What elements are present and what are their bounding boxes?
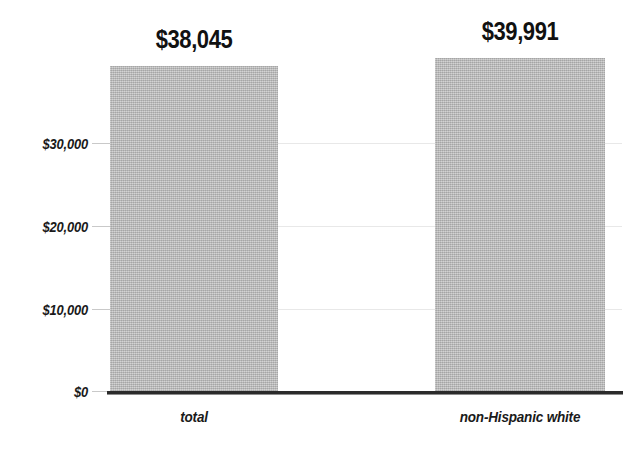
y-axis-tick-label: $0 [12, 383, 88, 400]
tick-mark-20000 [92, 226, 110, 227]
tick-mark-10000 [92, 309, 110, 310]
y-axis-tick-10000: $10,000 [0, 301, 88, 317]
bar-total [110, 66, 278, 392]
bar-chart: $30,000 $20,000 $10,000 $0 $38,045 $39,9… [0, 0, 635, 450]
y-axis-tick-30000: $30,000 [0, 135, 88, 151]
x-axis-category-label-non-hispanic-white: non-Hispanic white [439, 408, 601, 425]
x-axis-baseline-shadow [107, 394, 623, 395]
tick-mark-30000 [92, 143, 110, 144]
y-axis-tick-20000: $20,000 [0, 218, 88, 234]
plot-area: $30,000 $20,000 $10,000 $0 $38,045 $39,9… [0, 0, 635, 450]
y-axis-tick-label: $20,000 [12, 218, 88, 235]
bar-value-label-total: $38,045 [120, 25, 268, 54]
y-axis-tick-0: $0 [0, 383, 88, 399]
y-axis-tick-label: $30,000 [12, 135, 88, 152]
x-axis-category-label-total: total [118, 408, 269, 425]
bar-value-label-non-hispanic-white: $39,991 [445, 17, 595, 46]
bar-non-hispanic-white [435, 58, 605, 392]
y-axis-tick-label: $10,000 [12, 301, 88, 318]
